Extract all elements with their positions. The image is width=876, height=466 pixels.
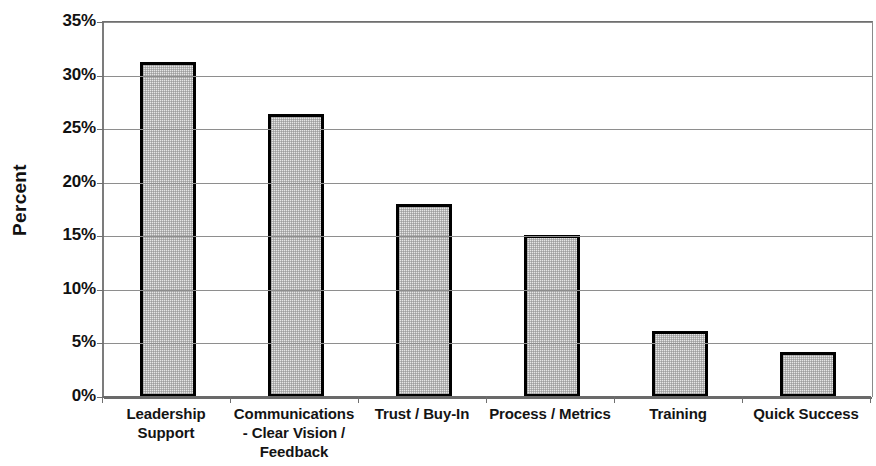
- bar: [524, 235, 580, 397]
- gridline: [104, 236, 872, 237]
- x-axis-tick-label: LeadershipSupport: [102, 404, 230, 442]
- y-axis-tick-label: 15%: [38, 225, 96, 245]
- y-axis-tickmark: [97, 236, 104, 237]
- y-axis-tick-label: 35%: [38, 11, 96, 31]
- x-axis-tickmark: [614, 396, 615, 403]
- x-axis-tick-label-line: - Clear Vision /: [230, 423, 358, 442]
- y-axis-tick-labels: 35%30%25%20%15%10%5%0%: [36, 0, 96, 466]
- x-axis-tickmark: [486, 396, 487, 403]
- x-axis-tick-label: Training: [614, 404, 742, 423]
- gridline: [104, 343, 872, 344]
- y-axis-tickmark: [97, 343, 104, 344]
- x-axis-tick-label-line: Process / Metrics: [486, 404, 614, 423]
- y-axis-tickmark: [97, 129, 104, 130]
- y-axis-tick-label: 10%: [38, 279, 96, 299]
- bar: [396, 204, 452, 397]
- x-axis-tick-label-line: Training: [614, 404, 742, 423]
- x-axis-tick-label-line: Feedback: [230, 442, 358, 461]
- x-axis-tick-label-line: Quick Success: [742, 404, 870, 423]
- x-axis-tickmark: [230, 396, 231, 403]
- y-axis-tick-label: 20%: [38, 172, 96, 192]
- bar: [780, 352, 836, 397]
- y-axis-title-label: Percent: [9, 164, 31, 236]
- x-axis-tickmark: [870, 396, 871, 403]
- y-axis-tick-label: 30%: [38, 65, 96, 85]
- bar-chart: Percent 35%30%25%20%15%10%5%0% Leadershi…: [0, 0, 876, 466]
- y-axis-tickmark: [97, 290, 104, 291]
- bar: [140, 62, 196, 397]
- y-axis-tick-label: 0%: [38, 386, 96, 406]
- gridline: [104, 129, 872, 130]
- bars-layer: [104, 22, 872, 397]
- bar: [268, 114, 324, 397]
- x-axis-tickmark: [358, 396, 359, 403]
- y-axis-tick-label: 5%: [38, 332, 96, 352]
- bar: [652, 331, 708, 397]
- x-axis-tick-label: Process / Metrics: [486, 404, 614, 423]
- gridline: [104, 290, 872, 291]
- x-axis-tickmark: [102, 396, 103, 403]
- plot-area: [102, 21, 873, 397]
- y-axis-tickmark: [97, 76, 104, 77]
- x-axis-tickmark: [742, 396, 743, 403]
- y-axis-title: Percent: [2, 0, 38, 400]
- gridline: [104, 183, 872, 184]
- x-axis-tick-label: Trust / Buy-In: [358, 404, 486, 423]
- gridline: [104, 22, 872, 23]
- x-axis-tick-label: Quick Success: [742, 404, 870, 423]
- x-axis-tick-labels: LeadershipSupportCommunications- Clear V…: [102, 404, 870, 466]
- gridline: [104, 76, 872, 77]
- x-axis-tick-label-line: Support: [102, 423, 230, 442]
- y-axis-tickmark: [97, 183, 104, 184]
- x-axis-tick-label-line: Communications: [230, 404, 358, 423]
- x-axis-tick-label: Communications- Clear Vision /Feedback: [230, 404, 358, 461]
- y-axis-tickmark: [97, 22, 104, 23]
- x-axis-tick-label-line: Leadership: [102, 404, 230, 423]
- x-axis-tick-label-line: Trust / Buy-In: [358, 404, 486, 423]
- y-axis-tick-label: 25%: [38, 118, 96, 138]
